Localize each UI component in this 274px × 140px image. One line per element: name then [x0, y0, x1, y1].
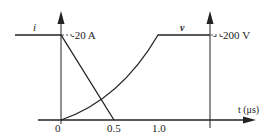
time-axis-arrow-icon [243, 117, 256, 124]
current-label: i [33, 21, 36, 33]
voltage-waveform [61, 35, 210, 120]
tick-label-0: 0 [55, 122, 61, 134]
current-level-label: -20 A [71, 29, 96, 41]
current-axis-arrow-icon [58, 11, 65, 24]
switching-waveform-diagram: i v -20 A - -200 V t (μs) 0 0.5 1.0 [0, 0, 274, 140]
current-waveform [15, 35, 114, 120]
waveform-canvas: i v -20 A - -200 V t (μs) 0 0.5 1.0 [0, 0, 274, 140]
voltage-level-label: - -200 V [213, 29, 250, 41]
tick-label-0-5: 0.5 [107, 122, 121, 134]
time-axis-label: t (μs) [238, 104, 259, 116]
voltage-label: v [180, 22, 185, 33]
tick-label-1-0: 1.0 [152, 122, 166, 134]
voltage-axis-arrow-icon [207, 11, 214, 24]
